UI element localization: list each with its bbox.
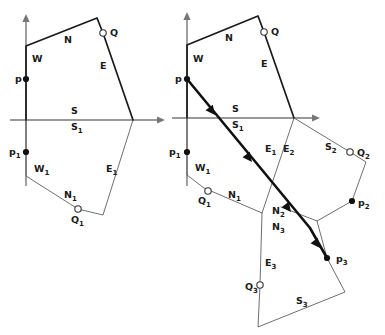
right-diagram-label-E2: E2 <box>283 143 295 157</box>
left-diagram-point-label-p1: p1 <box>9 146 21 160</box>
left-diagram-x-axis-arrow-icon <box>157 116 165 123</box>
right-diagram-point-label-Q1: Q1 <box>198 195 211 209</box>
left-diagram-point-label-Q1: Q1 <box>71 214 84 228</box>
right-diagram-point-Q <box>261 29 267 35</box>
right-diagram-point-p3 <box>324 255 330 261</box>
left-diagram-label-S: S <box>71 105 78 116</box>
right-diagram-label-S: S <box>232 103 239 114</box>
left-diagram-axes <box>10 14 165 186</box>
right-diagram-x-axis-arrow-icon <box>312 114 320 121</box>
right-diagram-point-label-Q2: Q2 <box>357 147 370 161</box>
right-diagram-y-axis-arrow-icon <box>183 12 190 20</box>
right-diagram-label-W1: W1 <box>195 162 210 176</box>
left-diagram-point-Q1 <box>75 206 81 212</box>
right-diagram: pp1p2p3QQ1Q2Q3NWESS1W1N1E1E2S2N2N3E3S3 <box>169 12 370 327</box>
right-diagram-axes <box>172 12 320 186</box>
right-diagram-label-E1: E1 <box>265 143 277 157</box>
left-diagram-label-E1: E1 <box>106 163 118 177</box>
left-diagram-y-axis-arrow-icon <box>22 14 29 22</box>
right-diagram-cell-2 <box>281 118 366 221</box>
right-diagram-label-N: N <box>225 32 233 43</box>
right-diagram-label-E3: E3 <box>265 257 277 271</box>
left-diagram-label-N: N <box>64 34 72 45</box>
left-diagram-label-W: W <box>32 53 43 64</box>
left-diagram-label-W1: W1 <box>34 163 49 177</box>
left-diagram-point-label-p: p <box>15 73 22 84</box>
left-diagram-label-S1: S1 <box>71 121 83 135</box>
left-diagram-point-label-Q: Q <box>110 27 118 38</box>
diagram-canvas: pp1QQ1NWESS1W1N1E1pp1p2p3QQ1Q2Q3NWESS1W1… <box>0 0 385 335</box>
left-diagram-point-p1 <box>23 149 29 155</box>
right-diagram-label-E: E <box>261 58 268 69</box>
left-diagram-label-E: E <box>100 60 107 71</box>
left-diagram-point-Q <box>100 30 106 36</box>
right-diagram-point-p <box>184 76 190 82</box>
right-diagram-point-label-p3: p3 <box>336 253 348 267</box>
right-diagram-point-p1 <box>184 149 190 155</box>
right-diagram-label-S3: S3 <box>296 295 308 309</box>
right-diagram-point-label-Q: Q <box>271 26 279 37</box>
left-diagram-point-p <box>23 76 29 82</box>
right-diagram-point-label-Q3: Q3 <box>245 281 258 295</box>
right-diagram-point-Q2 <box>347 149 353 155</box>
right-diagram-point-label-p1: p1 <box>169 146 181 160</box>
geometry-figure: pp1QQ1NWESS1W1N1E1pp1p2p3QQ1Q2Q3NWESS1W1… <box>0 0 385 335</box>
right-diagram-point-p2 <box>349 198 355 204</box>
right-diagram-label-S1: S1 <box>232 119 244 133</box>
right-diagram-label-W: W <box>193 53 204 64</box>
left-diagram: pp1QQ1NWESS1W1N1E1 <box>9 14 165 228</box>
right-diagram-point-label-p: p <box>175 73 182 84</box>
right-diagram-label-N3: N3 <box>272 221 285 235</box>
right-diagram-point-Q1 <box>205 188 211 194</box>
right-diagram-point-label-p2: p2 <box>358 197 370 211</box>
